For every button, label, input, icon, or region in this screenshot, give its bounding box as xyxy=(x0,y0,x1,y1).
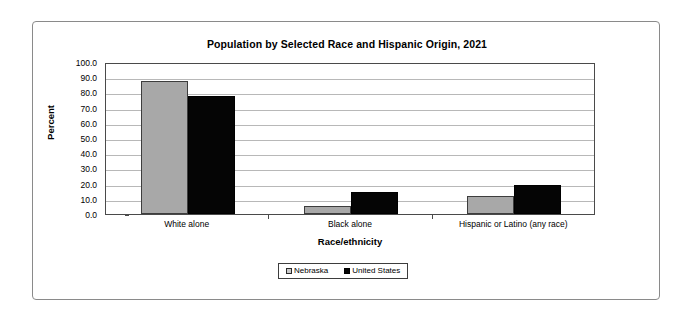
legend-swatch-icon xyxy=(286,268,292,274)
legend-item: Nebraska xyxy=(286,266,328,276)
y-tick-label: 20.0 xyxy=(80,181,97,190)
plot-area xyxy=(105,63,595,215)
bar xyxy=(304,206,351,214)
legend-item: United States xyxy=(344,266,400,276)
x-tick-label: Hispanic or Latino (any race) xyxy=(432,219,595,229)
bar xyxy=(188,96,235,214)
x-tick-label: Black alone xyxy=(268,219,431,229)
x-axis-title: Race/ethnicity xyxy=(105,236,595,247)
chart-title: Population by Selected Race and Hispanic… xyxy=(33,38,661,50)
x-tick-mark xyxy=(268,215,269,219)
y-tick-label: 80.0 xyxy=(80,89,97,98)
y-tick-label: 90.0 xyxy=(80,74,97,83)
x-tick-label: White alone xyxy=(105,219,268,229)
y-tick-label: 0.0 xyxy=(85,211,97,220)
y-tick-label: 100.0 xyxy=(76,59,97,68)
y-tick-mark xyxy=(125,215,129,216)
legend-item-label: United States xyxy=(352,266,400,276)
chart-figure-frame: Population by Selected Race and Hispanic… xyxy=(32,21,660,300)
x-axis-tick-labels: White aloneBlack aloneHispanic or Latino… xyxy=(105,219,595,235)
y-tick-label: 40.0 xyxy=(80,150,97,159)
y-tick-label: 10.0 xyxy=(80,196,97,205)
bar xyxy=(141,81,188,214)
legend-item-label: Nebraska xyxy=(294,266,328,276)
y-axis-title: Percent xyxy=(45,88,56,158)
y-tick-label: 50.0 xyxy=(80,135,97,144)
y-tick-label: 70.0 xyxy=(80,105,97,114)
bar xyxy=(514,185,561,214)
x-tick-mark xyxy=(432,215,433,219)
y-axis-tick-labels: 100.090.080.070.060.050.040.030.020.010.… xyxy=(57,57,101,221)
bar xyxy=(467,196,514,214)
chart-legend: NebraskaUnited States xyxy=(278,263,408,279)
y-tick-label: 60.0 xyxy=(80,120,97,129)
bar xyxy=(351,192,398,214)
y-tick-label: 30.0 xyxy=(80,165,97,174)
legend-swatch-icon xyxy=(344,268,350,274)
